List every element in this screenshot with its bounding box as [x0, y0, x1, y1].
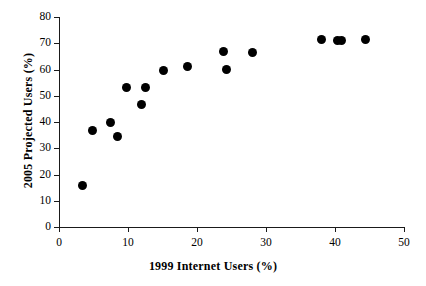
y-tick-mark: [54, 201, 59, 202]
y-axis-title: 2005 Projected Users (%): [21, 21, 36, 221]
x-tick-label: 50: [389, 237, 419, 249]
y-tick-mark: [54, 17, 59, 18]
data-point: [337, 36, 346, 45]
x-axis-line: [59, 227, 405, 228]
x-tick-mark: [59, 227, 60, 232]
data-point: [113, 132, 122, 141]
data-point: [183, 62, 192, 71]
data-point: [317, 35, 326, 44]
data-point: [141, 83, 150, 92]
y-tick-mark: [54, 43, 59, 44]
data-point: [159, 66, 168, 75]
data-point: [248, 48, 257, 57]
x-tick-mark: [128, 227, 129, 232]
data-point: [361, 35, 370, 44]
y-tick-mark: [54, 148, 59, 149]
data-point: [219, 47, 228, 56]
data-point: [106, 118, 115, 127]
x-tick-mark: [404, 227, 405, 232]
y-axis-line: [59, 17, 60, 227]
y-tick-label: 0: [19, 221, 51, 233]
x-tick-label: 30: [251, 237, 281, 249]
data-point: [88, 126, 97, 135]
x-tick-label: 20: [182, 237, 212, 249]
data-point: [137, 100, 146, 109]
x-tick-mark: [197, 227, 198, 232]
x-tick-label: 10: [113, 237, 143, 249]
plot-area: 01020304050607080 01020304050: [59, 17, 404, 227]
x-tick-label: 0: [44, 237, 74, 249]
x-tick-mark: [266, 227, 267, 232]
y-tick-mark: [54, 175, 59, 176]
data-point: [222, 65, 231, 74]
x-tick-mark: [335, 227, 336, 232]
y-tick-mark: [54, 122, 59, 123]
data-point: [122, 83, 131, 92]
y-tick-mark: [54, 70, 59, 71]
x-axis-title: 1999 Internet Users (%): [0, 259, 426, 274]
data-point: [78, 181, 87, 190]
y-tick-mark: [54, 96, 59, 97]
scatter-chart: 01020304050607080 01020304050 1999 Inter…: [0, 0, 426, 286]
x-tick-label: 40: [320, 237, 350, 249]
